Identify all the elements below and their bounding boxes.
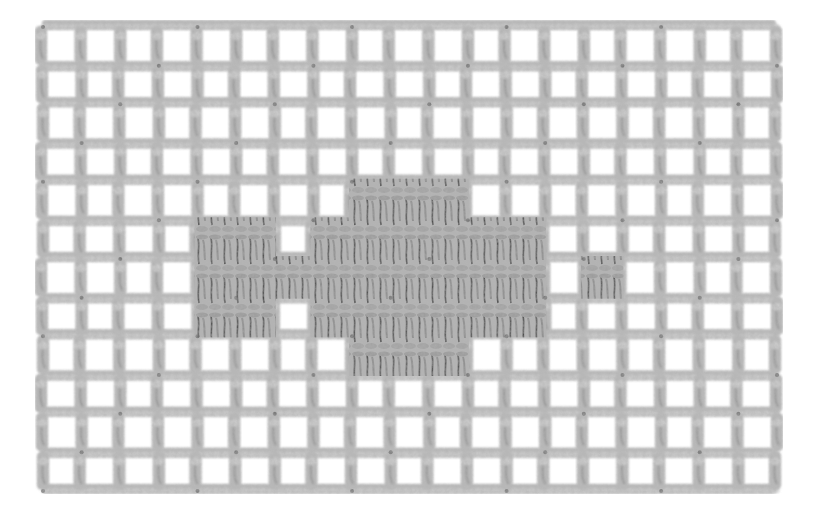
crochet-mesh-photo [0, 0, 816, 512]
